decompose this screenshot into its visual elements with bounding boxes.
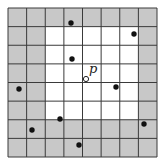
data-point	[141, 121, 146, 126]
query-point-p	[83, 76, 88, 81]
data-point	[68, 20, 73, 25]
grid-diagram: p	[0, 0, 164, 165]
data-point	[113, 84, 118, 89]
data-point	[69, 56, 74, 61]
query-point-label: p	[89, 61, 98, 76]
data-point	[57, 116, 62, 121]
data-point	[29, 127, 34, 132]
data-point	[76, 142, 81, 147]
data-point	[16, 86, 21, 91]
data-point	[131, 31, 136, 36]
